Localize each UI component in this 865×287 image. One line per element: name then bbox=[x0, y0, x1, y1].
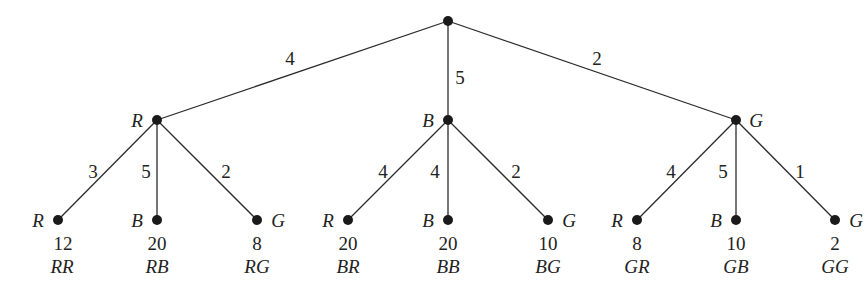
weight-B-G: 2 bbox=[511, 161, 521, 182]
edge-root-G bbox=[448, 21, 736, 120]
weight-G-R: 4 bbox=[666, 161, 676, 182]
leaf-BR bbox=[343, 215, 353, 225]
leaf-value-BB: 20 bbox=[439, 233, 458, 254]
node-R bbox=[152, 115, 162, 125]
edge-R-G bbox=[157, 120, 257, 220]
leaf-BB bbox=[443, 215, 453, 225]
leaf-BG bbox=[543, 215, 553, 225]
leaf-value-RR: 12 bbox=[54, 233, 73, 254]
leaf-value-RB: 20 bbox=[148, 233, 167, 254]
leaf-code-GG: GG bbox=[821, 256, 849, 277]
leaf-code-RR: RR bbox=[49, 256, 74, 277]
leaf-value-GB: 10 bbox=[727, 233, 746, 254]
leaf-code-GR: GR bbox=[624, 256, 650, 277]
node-G bbox=[731, 115, 741, 125]
weight-root-G: 2 bbox=[592, 48, 602, 69]
label-node-G: G bbox=[749, 110, 763, 131]
leaf-label-GB: B bbox=[710, 210, 722, 231]
leaf-label-RR: R bbox=[31, 210, 44, 231]
leaf-value-RG: 8 bbox=[252, 233, 262, 254]
edge-G-G bbox=[736, 120, 835, 220]
leaf-code-RG: RG bbox=[243, 256, 270, 277]
leaf-RG bbox=[252, 215, 262, 225]
leaf-code-BB: BB bbox=[436, 256, 460, 277]
edge-root-R bbox=[157, 21, 448, 120]
leaf-label-GR: R bbox=[610, 210, 623, 231]
label-node-R: R bbox=[130, 110, 143, 131]
leaf-RR bbox=[53, 215, 63, 225]
leaf-value-GG: 2 bbox=[830, 233, 840, 254]
label-node-B: B bbox=[422, 110, 434, 131]
weight-root-B: 5 bbox=[455, 67, 465, 88]
leaf-label-BB: B bbox=[422, 210, 434, 231]
weight-R-R: 3 bbox=[88, 161, 98, 182]
leaf-label-RG: G bbox=[271, 210, 285, 231]
leaf-RB bbox=[152, 215, 162, 225]
leaf-label-BG: G bbox=[562, 210, 576, 231]
leaf-code-BR: BR bbox=[336, 256, 360, 277]
weight-R-B: 5 bbox=[141, 161, 151, 182]
leaf-label-GG: G bbox=[849, 210, 863, 231]
leaf-GG bbox=[830, 215, 840, 225]
leaf-code-BG: BG bbox=[535, 256, 561, 277]
leaf-code-RB: RB bbox=[144, 256, 169, 277]
leaf-value-BG: 10 bbox=[539, 233, 558, 254]
weight-B-B: 4 bbox=[430, 161, 440, 182]
weight-G-B: 5 bbox=[718, 161, 728, 182]
edge-B-G bbox=[448, 120, 548, 220]
root-node bbox=[443, 16, 453, 26]
leaf-GB bbox=[731, 215, 741, 225]
leaf-code-GB: GB bbox=[723, 256, 749, 277]
leaf-label-BR: R bbox=[321, 210, 334, 231]
weight-B-R: 4 bbox=[378, 161, 388, 182]
leaf-label-RB: B bbox=[131, 210, 143, 231]
weight-root-R: 4 bbox=[285, 48, 295, 69]
leaf-GR bbox=[632, 215, 642, 225]
probability-tree: 4 5 2 R B G 3 5 2 4 4 2 4 5 1 R B G R B … bbox=[0, 0, 865, 287]
leaf-value-BR: 20 bbox=[339, 233, 358, 254]
node-B bbox=[443, 115, 453, 125]
weight-R-G: 2 bbox=[221, 161, 231, 182]
weight-G-G: 1 bbox=[795, 161, 805, 182]
leaf-value-GR: 8 bbox=[632, 233, 642, 254]
